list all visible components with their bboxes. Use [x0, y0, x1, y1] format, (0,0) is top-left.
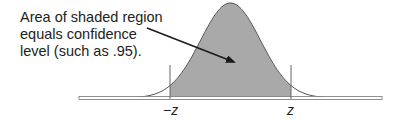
z-label: z	[287, 102, 294, 118]
baseline-axis	[79, 97, 382, 100]
neg-z-label: −z	[163, 102, 178, 118]
annotation-line-1: Area of shaded region	[20, 9, 163, 26]
annotation-line-2: equals confidence	[20, 26, 163, 43]
annotation-line-3: level (such as .95).	[20, 43, 163, 60]
annotation-text: Area of shaded region equals confidence …	[20, 9, 163, 60]
